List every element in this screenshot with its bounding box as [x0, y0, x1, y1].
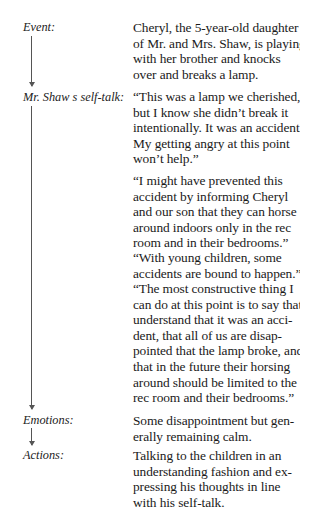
- arrow-down-icon: [31, 428, 32, 445]
- label-self-talk: Mr. Shaw s self-talk:: [23, 90, 124, 105]
- text-line: around indoors only in the rec: [133, 220, 293, 236]
- self-talk-paragraph-3: “With young children, some accidents are…: [133, 250, 293, 281]
- text-line: dent, that all of us are disap-: [133, 328, 293, 344]
- label-actions: Actions:: [23, 448, 64, 463]
- text-line: understand that it was an acci-: [133, 312, 293, 328]
- label-event: Event:: [23, 20, 55, 35]
- text-line: won’t help.”: [133, 151, 293, 167]
- self-talk-paragraph-2: “I might have prevented this accident by…: [133, 173, 293, 251]
- text-line: pressing his thoughts in line: [133, 479, 293, 495]
- text-line: Some disappointment but gen-: [133, 413, 293, 429]
- text-line: My getting angry at this point: [133, 136, 293, 152]
- text-line: rec room and their bedrooms.”: [133, 390, 293, 406]
- text-line: “I might have prevented this: [133, 173, 293, 189]
- text-line: understanding fashion and ex-: [133, 464, 293, 480]
- text-line: but I know she didn’t break it: [133, 105, 293, 121]
- text-line: intentionally. It was an accident.: [133, 120, 293, 136]
- arrow-down-icon: [31, 106, 32, 409]
- text-line: room and in their bedrooms.”: [133, 235, 293, 251]
- text-line: with his self-talk.: [133, 495, 293, 511]
- actions-paragraph: Talking to the children in an understand…: [133, 448, 293, 510]
- text-line: Talking to the children in an: [133, 448, 293, 464]
- arrow-down-icon: [31, 36, 32, 86]
- text-line: accidents are bound to happen.”: [133, 266, 293, 282]
- text-line: erally remaining calm.: [133, 429, 293, 445]
- event-paragraph: Cheryl, the 5-year-old daughter of Mr. a…: [133, 20, 293, 82]
- text-line: “The most constructive thing I: [133, 281, 293, 297]
- text-line: Cheryl, the 5-year-old daughter: [133, 20, 293, 36]
- text-line: over and breaks a lamp.: [133, 67, 293, 83]
- text-line: around should be limited to the: [133, 375, 293, 391]
- text-line: and our son that they can horse: [133, 204, 293, 220]
- text-line: with her brother and knocks: [133, 51, 293, 67]
- text-line: accident by informing Cheryl: [133, 189, 293, 205]
- text-line: “With young children, some: [133, 250, 293, 266]
- text-line: can do at this point is to say that I: [133, 297, 293, 313]
- text-line: pointed that the lamp broke, and: [133, 343, 293, 359]
- emotions-paragraph: Some disappointment but gen- erally rema…: [133, 413, 293, 444]
- label-emotions: Emotions:: [23, 413, 74, 428]
- text-line: that in the future their horsing: [133, 359, 293, 375]
- self-talk-paragraph-4: “The most constructive thing I can do at…: [133, 281, 293, 406]
- text-line: of Mr. and Mrs. Shaw, is playing: [133, 36, 293, 52]
- text-line: “This was a lamp we cherished,: [133, 89, 293, 105]
- self-talk-paragraph-1: “This was a lamp we cherished, but I kno…: [133, 89, 293, 167]
